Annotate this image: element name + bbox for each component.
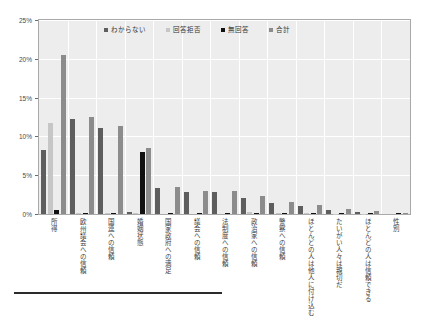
bar-group — [269, 20, 294, 214]
legend-item[interactable]: わからない — [104, 26, 146, 34]
bar — [155, 188, 160, 214]
y-axis-tick-mark — [35, 98, 38, 99]
bar-group — [127, 20, 152, 214]
legend-swatch-icon — [104, 28, 108, 32]
bar — [396, 213, 401, 214]
legend-swatch-icon — [269, 28, 273, 32]
bar — [304, 213, 309, 214]
bar — [111, 213, 116, 214]
legend-label: 無回答 — [228, 26, 249, 34]
bar-group — [241, 20, 266, 214]
bar — [140, 152, 145, 214]
bar — [48, 123, 53, 214]
bar — [105, 213, 110, 214]
x-axis-tick-label: 婚姻状態 — [135, 218, 143, 246]
x-axis-tick-label: 国連への信頼 — [107, 218, 115, 260]
bars-layer — [39, 20, 410, 214]
bar — [355, 212, 360, 214]
x-axis-tick-label: 警察への信頼 — [278, 218, 286, 260]
bar — [83, 213, 88, 214]
bar-group — [41, 20, 66, 214]
legend-label: 回答拒否 — [173, 26, 201, 34]
bar — [118, 126, 123, 214]
bar-group — [383, 20, 408, 214]
x-axis-tick-label: ほとんどの人は他人に付け込む — [306, 218, 314, 316]
y-axis: 0%5%10%15%20%25% — [0, 0, 38, 216]
bar-group — [155, 20, 180, 214]
y-axis-tick-mark — [35, 214, 38, 215]
y-axis-tick-label: 15% — [19, 94, 32, 101]
bar — [225, 213, 230, 214]
bar — [326, 210, 331, 214]
bar — [127, 212, 132, 214]
bar-group — [298, 20, 323, 214]
x-axis-tick-label: 法制度への信頼 — [221, 218, 229, 267]
legend-item[interactable]: 無回答 — [221, 26, 249, 34]
x-axis-tick-label: 政治家への信頼 — [249, 218, 257, 267]
x-axis-tick-label: 国家政府への満足 — [164, 218, 172, 274]
bar — [146, 148, 151, 214]
bar — [70, 119, 75, 214]
bar — [203, 191, 208, 214]
x-axis-tick-label: 欧州議会への信頼 — [78, 218, 86, 274]
y-axis-tick-label: 5% — [23, 172, 32, 179]
bar — [374, 211, 379, 214]
bar-group — [212, 20, 237, 214]
bar-group — [326, 20, 351, 214]
x-axis-tick-label: 議会への信頼 — [192, 218, 200, 260]
bar — [61, 55, 66, 214]
bar-group — [98, 20, 123, 214]
x-axis-tick-label: 性別 — [392, 218, 400, 232]
legend-label: わからない — [111, 26, 146, 34]
y-axis-tick-mark — [35, 59, 38, 60]
chart-legend: わからない回答拒否無回答合計 — [104, 24, 290, 35]
legend-swatch-icon — [166, 28, 170, 32]
bar — [298, 206, 303, 214]
x-axis: 所得欧州議会への信頼国連への信頼婚姻状態国家政府への満足議会への信頼法制度への信… — [39, 218, 410, 290]
bar — [276, 213, 281, 214]
bar — [247, 212, 252, 214]
y-axis-tick-label: 20% — [19, 55, 32, 62]
legend-item[interactable]: 合計 — [269, 26, 290, 34]
y-axis-tick-mark — [35, 175, 38, 176]
y-axis-tick-label: 10% — [19, 133, 32, 140]
bar — [269, 203, 274, 214]
legend-swatch-icon — [221, 28, 225, 32]
bar — [311, 213, 316, 214]
bar — [339, 213, 344, 214]
bar — [133, 213, 138, 214]
bar — [168, 213, 173, 214]
bar — [184, 192, 189, 215]
x-axis-tick-label: 所得 — [50, 218, 58, 232]
bar-group — [184, 20, 209, 214]
bar — [368, 213, 373, 214]
bar — [282, 213, 287, 214]
legend-item[interactable]: 回答拒否 — [166, 26, 201, 34]
y-axis-tick-mark — [35, 136, 38, 137]
bar — [41, 150, 46, 214]
bar — [175, 187, 180, 214]
y-axis-tick-label: 25% — [19, 17, 32, 24]
x-axis-tick-label: たいがい人々は親切だ — [335, 218, 343, 288]
bar-group — [355, 20, 380, 214]
bar — [232, 191, 237, 214]
bar — [317, 205, 322, 214]
bar — [197, 213, 202, 214]
y-axis-tick-mark — [35, 20, 38, 21]
bar-group — [70, 20, 95, 214]
bar — [289, 202, 294, 214]
footer-rule — [14, 292, 222, 294]
bar — [260, 196, 265, 214]
bar — [89, 117, 94, 214]
bar — [241, 198, 246, 214]
bar — [54, 210, 59, 214]
bar — [98, 128, 103, 214]
bar — [212, 192, 217, 214]
bar — [346, 209, 351, 214]
bar — [403, 213, 408, 214]
legend-label: 合計 — [276, 26, 290, 34]
bar — [76, 213, 81, 214]
x-axis-tick-label: ほとんどの人は信頼できる — [363, 218, 371, 302]
y-axis-tick-label: 0% — [23, 211, 32, 218]
